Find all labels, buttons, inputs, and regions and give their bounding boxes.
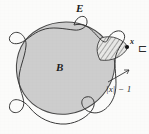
figure-canvas: E B x ⊏ |x| − 1 <box>0 0 149 134</box>
label-distance-annotation: |x| − 1 <box>106 85 131 94</box>
bracket-c-icon: ⊏ <box>138 43 147 54</box>
diagram-svg <box>0 0 149 134</box>
label-set-B: B <box>56 62 63 73</box>
label-point-x: x <box>130 38 134 46</box>
label-set-E: E <box>76 3 83 14</box>
point-x-marker <box>125 45 129 49</box>
